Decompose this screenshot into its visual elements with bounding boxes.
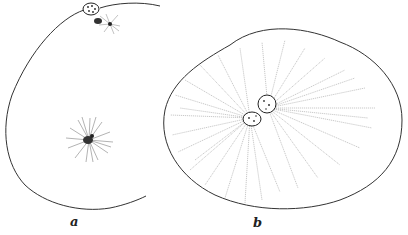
panel-a — [6, 3, 160, 209]
polar-body — [83, 3, 99, 15]
cell-outline-b — [164, 29, 402, 209]
panel-b — [164, 29, 402, 209]
large-aster — [170, 40, 375, 203]
panel-label-b: b — [253, 215, 262, 230]
figure: a b — [0, 0, 408, 235]
cell-outline-a — [6, 10, 146, 209]
figure-svg — [0, 0, 408, 235]
panel-label-a: a — [70, 214, 78, 229]
cell-outline-a-top — [100, 3, 160, 8]
pronucleus-1 — [258, 95, 276, 113]
pronucleus-2 — [243, 112, 261, 126]
